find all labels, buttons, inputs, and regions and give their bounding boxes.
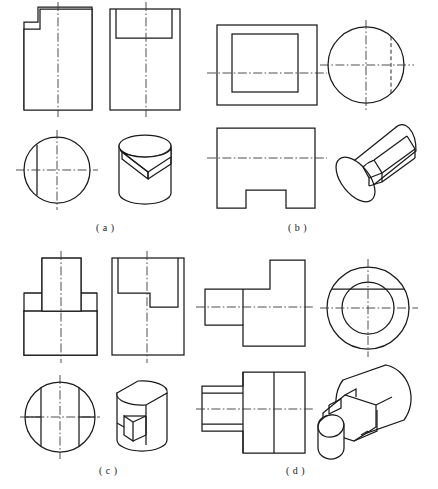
panel-b-top-view: [207, 25, 327, 105]
panel-b: [203, 0, 438, 232]
panel-c-isometric-view: [117, 381, 167, 451]
panel-d-caption-label: ( d ): [286, 465, 305, 476]
panel-b-isometric-view: [328, 125, 416, 209]
panel-a-top-view: [16, 130, 98, 210]
drawing-sheet: ( a ) ( a ): [0, 0, 438, 489]
panel-c-caption-label: ( c ): [99, 465, 118, 476]
panel-a-front-view: [24, 2, 92, 117]
panel-d-isometric-view: [315, 365, 411, 459]
panel-c: [0, 245, 205, 477]
panel-a-caption-label: ( a ): [96, 222, 115, 233]
panel-a-side-view: [110, 2, 180, 117]
panel-a-isometric-view: [119, 135, 171, 204]
panel-b-front-view: [207, 128, 327, 208]
panel-c-side-view: [112, 251, 184, 363]
panel-b-caption-label: ( b ): [288, 222, 307, 233]
panel-c-top-view: [20, 375, 100, 459]
panel-d-side-view: [320, 259, 418, 357]
panel-d: [196, 245, 438, 477]
panel-a: ( a ): [0, 0, 205, 232]
panel-b-side-view: [320, 20, 414, 112]
panel-d-front-view: [196, 260, 314, 346]
panel-c-front-view: [24, 251, 97, 363]
panel-d-top-view: [196, 372, 314, 453]
